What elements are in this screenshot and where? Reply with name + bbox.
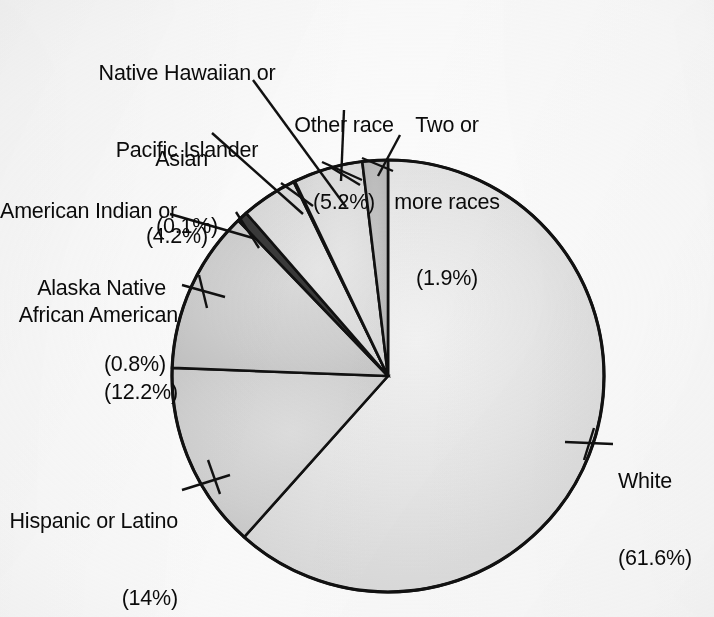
pie-chart-figure: Native Hawaiian or Pacific Islander (0.1…: [0, 0, 714, 617]
label-african-american-line1: African American: [0, 303, 178, 329]
label-two-or-more-line3: (1.9%): [368, 266, 526, 292]
label-american-indian-line1: American Indian or: [0, 199, 166, 225]
label-hispanic-line2: (14%): [0, 586, 178, 612]
label-white-line1: White: [618, 469, 714, 495]
label-white-line2: (61.6%): [618, 546, 714, 572]
label-two-or-more: Two or more races (1.9%): [368, 62, 526, 343]
label-hispanic: Hispanic or Latino (14%): [0, 458, 178, 617]
label-white: White (61.6%): [618, 418, 714, 617]
label-two-or-more-line1: Two or: [368, 113, 526, 139]
label-african-american-line2: (12.2%): [0, 380, 178, 406]
label-african-american: African American (12.2%): [0, 252, 178, 456]
label-two-or-more-line2: more races: [368, 190, 526, 216]
label-hispanic-line1: Hispanic or Latino: [0, 509, 178, 535]
